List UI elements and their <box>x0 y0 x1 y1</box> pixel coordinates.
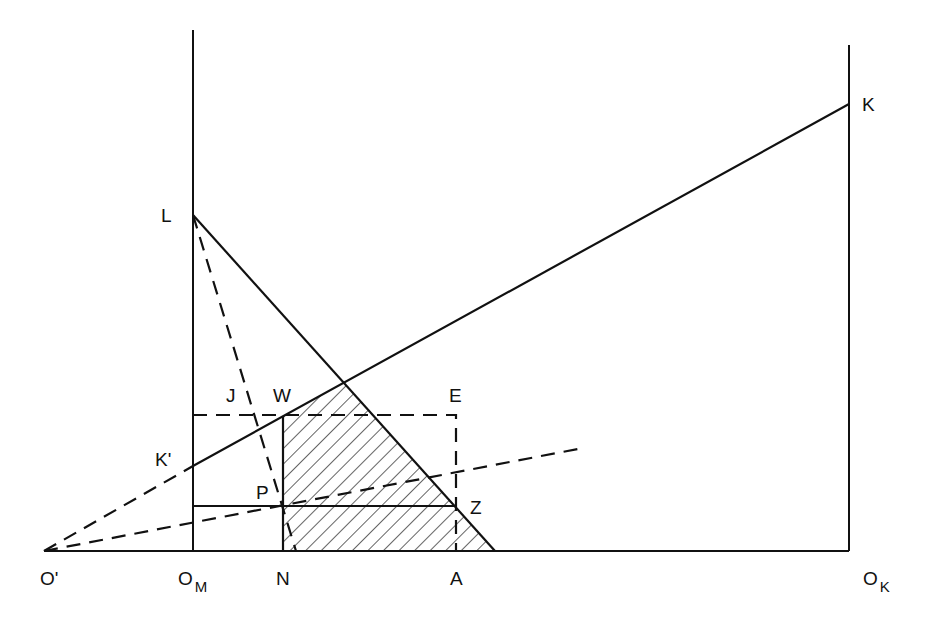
label-E: E <box>449 385 462 406</box>
label-N: N <box>276 568 290 589</box>
dashed-Oprime-Kprime <box>44 466 193 551</box>
label-Z: Z <box>470 497 482 518</box>
line-Kprime-K <box>193 104 849 466</box>
hatched-area <box>283 383 495 551</box>
economic-diagram: K L K' J W E P Z O' OM N A OK <box>0 0 927 627</box>
label-K: K <box>862 94 875 115</box>
label-O-M: OM <box>178 568 207 595</box>
dashed-L-P-line <box>193 215 296 551</box>
label-K-prime: K' <box>155 449 171 470</box>
label-P: P <box>256 482 269 503</box>
label-A: A <box>450 568 463 589</box>
label-O-K: OK <box>863 568 890 595</box>
label-W: W <box>273 385 291 406</box>
label-J: J <box>226 385 236 406</box>
label-O-prime: O' <box>40 568 58 589</box>
label-L: L <box>161 205 172 226</box>
